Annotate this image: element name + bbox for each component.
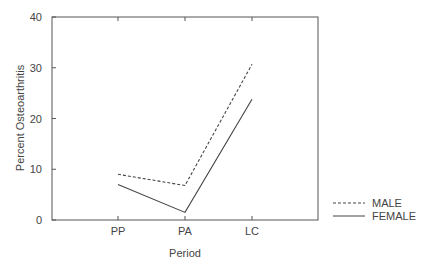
series-male-line — [118, 64, 252, 185]
y-axis-title: Percent Osteoarthritis — [14, 64, 26, 171]
y-tick-label: 30 — [30, 62, 42, 74]
x-tick-label: PP — [111, 225, 126, 237]
legend-label-male: MALE — [372, 197, 402, 209]
x-tick-label: LC — [245, 225, 259, 237]
y-tick-label: 20 — [30, 113, 42, 125]
plot-frame — [52, 17, 318, 220]
x-axis-title: Period — [169, 247, 201, 259]
series-female-line — [118, 99, 252, 212]
x-axis-ticks: PPPALC — [111, 17, 259, 237]
line-chart: 010203040 PPPALC Percent Osteoarthritis … — [0, 0, 427, 268]
y-tick-label: 0 — [36, 214, 42, 226]
y-tick-label: 40 — [30, 11, 42, 23]
data-series — [118, 64, 252, 212]
legend-label-female: FEMALE — [372, 210, 416, 222]
x-tick-label: PA — [178, 225, 193, 237]
y-tick-label: 10 — [30, 163, 42, 175]
legend: MALEFEMALE — [333, 197, 416, 222]
